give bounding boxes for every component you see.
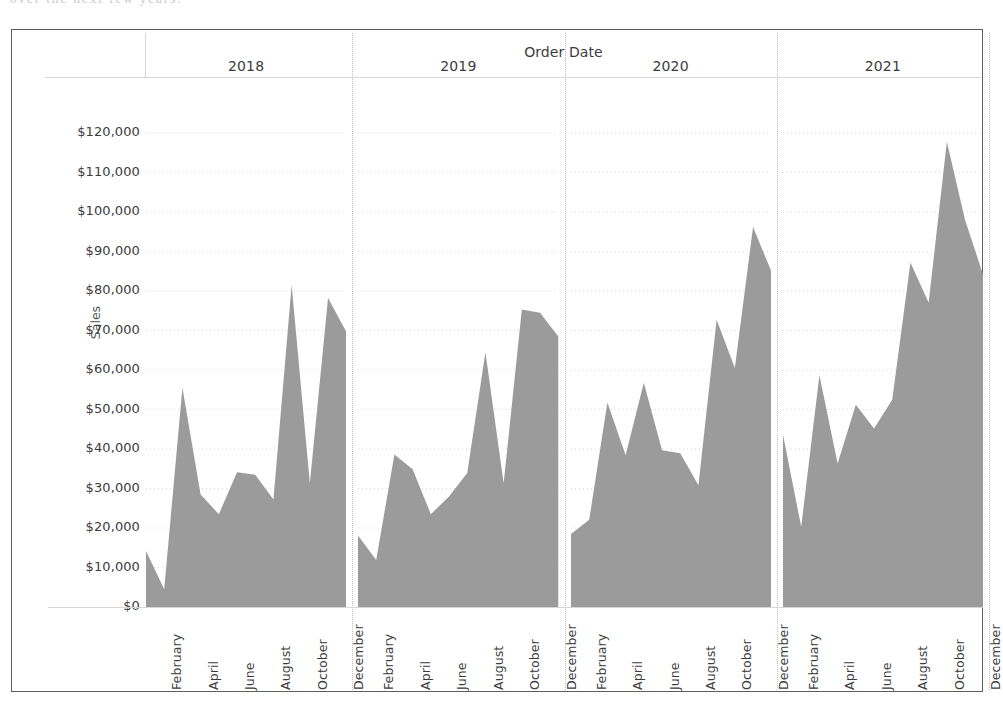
chart-figure-frame: Order Date 2018201920202021 Sales $120,0… [11,29,983,692]
month-label-august: August [915,646,930,690]
column-header-band: Order Date 2018201920202021 [146,33,981,78]
year-header-2019: 2019 [358,58,558,74]
month-label-october: October [739,639,754,690]
y-axis-tick-label: $110,000 [40,164,140,179]
chart-panel-2019 [358,78,558,608]
panel-divider [352,33,353,690]
area-series-2020[interactable] [571,227,771,607]
month-label-august: August [703,646,718,690]
month-label-february: February [169,634,184,690]
panel-divider [565,33,566,690]
year-header-2021: 2021 [783,58,983,74]
y-axis-tick-label: $30,000 [40,480,140,495]
area-series-2019[interactable] [358,310,558,607]
month-label-december: December [988,624,1003,690]
area-plot-2021 [783,78,983,608]
month-label-april: April [206,661,221,690]
month-label-june: June [454,662,469,690]
month-label-april: April [842,661,857,690]
month-label-august: August [491,646,506,690]
chart-panel-2021 [783,78,983,608]
y-axis-tick-label: $100,000 [40,203,140,218]
y-axis-tick-label: $80,000 [40,282,140,297]
panel-divider [989,33,990,690]
y-axis-tick-labels: $120,000$110,000$100,000$90,000$80,000$7… [12,30,140,691]
y-axis-tick-label: $120,000 [40,124,140,139]
year-header-2018: 2018 [146,58,346,74]
y-axis-tick-label: $70,000 [40,322,140,337]
plot-area [146,78,983,608]
month-label-december: December [776,624,791,690]
scan-artifact: over the next few years. [0,0,994,20]
month-label-april: April [630,661,645,690]
year-header-2020: 2020 [571,58,771,74]
month-label-february: February [381,634,396,690]
chart-panel-2018 [146,78,346,608]
y-axis-tick-label: $0 [40,598,140,613]
month-label-october: October [315,639,330,690]
area-plot-2019 [358,78,558,608]
month-label-february: February [594,634,609,690]
y-axis-tick-label: $50,000 [40,401,140,416]
y-axis-tick-label: $60,000 [40,361,140,376]
panel-divider [777,33,778,690]
month-label-june: June [879,662,894,690]
area-plot-2018 [146,78,346,608]
chart-panel-2020 [571,78,771,608]
x-axis-tick-labels: FebruaryAprilJuneAugustOctoberDecemberFe… [146,608,983,692]
month-label-december: December [351,624,366,690]
scan-artifact-text: over the next few years. [10,0,183,7]
area-series-2021[interactable] [783,142,983,607]
y-axis-tick-label: $20,000 [40,519,140,534]
month-label-december: December [564,624,579,690]
month-label-june: June [667,662,682,690]
y-axis-tick-label: $10,000 [40,559,140,574]
month-label-october: October [527,639,542,690]
y-axis-tick-label: $90,000 [40,243,140,258]
month-label-august: August [278,646,293,690]
month-label-april: April [418,661,433,690]
y-axis-tick-label: $40,000 [40,440,140,455]
month-label-october: October [952,639,967,690]
month-label-june: June [242,662,257,690]
area-series-2018[interactable] [146,285,346,607]
month-label-february: February [806,634,821,690]
area-plot-2020 [571,78,771,608]
